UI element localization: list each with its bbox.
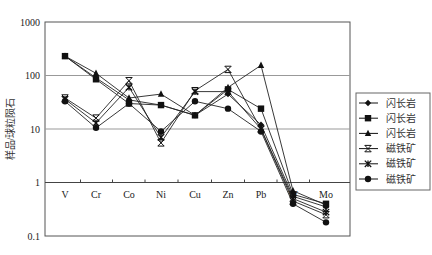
- data-point-square-marker-icon: [258, 105, 264, 111]
- x-category-label: Zn: [222, 189, 233, 200]
- legend-label: 磁铁矿: [386, 142, 416, 154]
- legend-label: 闪长岩: [386, 112, 416, 124]
- data-point-circle-marker-icon: [62, 98, 68, 104]
- x-category-label: V: [61, 189, 69, 200]
- data-point-asterisk-marker-icon: [158, 134, 164, 140]
- chart-root: 10001001010.1VCrCoNiCuZnPbWMo样品/球粒陨石闪长岩闪…: [0, 0, 432, 255]
- x-category-label: Ni: [156, 189, 166, 200]
- legend-label: 闪长岩: [386, 97, 416, 109]
- data-point-asterisk-marker-icon: [126, 84, 132, 90]
- x-category-label: Mo: [319, 189, 333, 200]
- data-point-x-marker-icon: [158, 140, 164, 146]
- data-point-circle-marker-icon: [192, 98, 198, 104]
- data-point-x-marker-icon: [225, 66, 231, 72]
- data-point-circle-marker-icon: [258, 128, 264, 134]
- y-tick-label: 0.1: [28, 231, 41, 242]
- data-point-triangle-marker-icon: [93, 70, 99, 76]
- data-point-x-marker-icon: [126, 77, 132, 83]
- data-point-square-marker-icon: [93, 76, 99, 82]
- series-line: [65, 101, 326, 222]
- y-axis-label: 样品/球粒陨石: [4, 98, 16, 161]
- x-category-label: Cr: [91, 189, 102, 200]
- data-point-circle-marker-icon: [290, 201, 296, 207]
- data-point-circle-marker-icon: [225, 105, 231, 111]
- data-point-circle-marker-icon: [158, 128, 164, 134]
- x-category-label: Pb: [256, 189, 267, 200]
- y-tick-label: 10: [30, 124, 40, 135]
- x-category-label: Cu: [189, 189, 201, 200]
- x-category-label: Co: [123, 189, 135, 200]
- y-tick-label: 1000: [20, 17, 40, 28]
- y-tick-label: 1: [35, 177, 40, 188]
- y-tick-label: 100: [25, 70, 40, 81]
- legend-circle-marker-icon: [365, 176, 371, 182]
- data-point-triangle-marker-icon: [258, 62, 264, 68]
- legend-square-marker-icon: [365, 115, 371, 121]
- legend-label: 磁铁矿: [386, 157, 416, 169]
- legend-label: 闪长岩: [386, 127, 416, 139]
- line-chart: 10001001010.1VCrCoNiCuZnPbWMo样品/球粒陨石闪长岩闪…: [0, 0, 432, 255]
- legend-label: 磁铁矿: [386, 173, 416, 185]
- data-point-circle-marker-icon: [323, 219, 329, 225]
- data-point-circle-marker-icon: [93, 125, 99, 131]
- data-point-circle-marker-icon: [126, 100, 132, 106]
- data-point-square-marker-icon: [158, 102, 164, 108]
- data-point-triangle-marker-icon: [158, 90, 164, 96]
